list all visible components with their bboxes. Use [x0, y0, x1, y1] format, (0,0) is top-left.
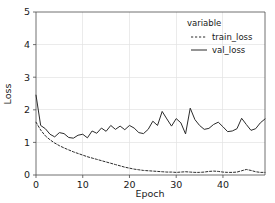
y-axis-title: Loss: [2, 84, 13, 105]
y-tick-label: 5: [24, 6, 30, 17]
series-line-val-loss: [36, 95, 265, 138]
y-tick-label: 2: [24, 104, 30, 115]
loss-chart: 012345010203040 Epoch Loss variable trai…: [0, 0, 275, 203]
y-tick-label: 4: [24, 39, 30, 50]
x-tick-label: 30: [170, 179, 182, 190]
y-tick-label: 0: [24, 169, 30, 180]
y-tick-label: 3: [24, 72, 30, 83]
chart-canvas: 012345010203040 Epoch Loss variable trai…: [0, 0, 275, 203]
legend-label-val-loss: val_loss: [212, 45, 246, 55]
legend-label-train-loss: train_loss: [212, 32, 253, 42]
x-tick-label: 40: [217, 179, 229, 190]
tick-labels: 012345010203040: [24, 6, 229, 190]
y-tick-label: 1: [24, 137, 30, 148]
x-axis-title: Epoch: [135, 188, 164, 199]
tick-marks: [33, 12, 223, 178]
legend: variable train_loss val_loss: [187, 18, 253, 55]
series-line-train-loss: [36, 122, 265, 172]
series-lines: [36, 95, 265, 172]
legend-title: variable: [187, 18, 221, 28]
x-tick-label: 20: [123, 179, 135, 190]
x-tick-label: 10: [77, 179, 89, 190]
x-tick-label: 0: [33, 179, 39, 190]
